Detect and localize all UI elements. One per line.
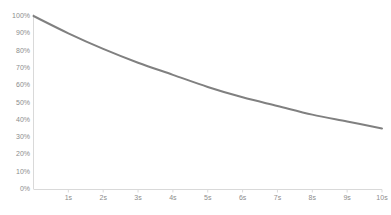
x-axis-tick-label: 9s bbox=[332, 194, 362, 202]
series-group bbox=[34, 16, 383, 128]
x-axis-tick-label: 8s bbox=[297, 194, 327, 202]
y-axis-tick-label: 20% bbox=[0, 150, 30, 158]
line-series-decay bbox=[34, 16, 383, 128]
y-axis-tick-label: 0% bbox=[0, 185, 30, 193]
x-axis-tick-label: 3s bbox=[123, 194, 153, 202]
x-axis-tick-label: 2s bbox=[88, 194, 118, 202]
y-axis-tick-label: 30% bbox=[0, 133, 30, 141]
y-axis-tick-label: 10% bbox=[0, 168, 30, 176]
x-axis-tick-label: 4s bbox=[158, 194, 188, 202]
y-axis-tick-label: 60% bbox=[0, 81, 30, 89]
y-axis-tick-label: 90% bbox=[0, 29, 30, 37]
y-axis-tick-label: 50% bbox=[0, 99, 30, 107]
x-axis-tick-label: 10s bbox=[367, 194, 391, 202]
x-axis-tick-label: 1s bbox=[53, 194, 83, 202]
chart-container: 0%10%20%30%40%50%60%70%80%90%100% 1s2s3s… bbox=[0, 0, 391, 215]
x-axis-tick-label: 6s bbox=[228, 194, 258, 202]
x-axis-tick-label: 7s bbox=[262, 194, 292, 202]
y-axis-tick-label: 40% bbox=[0, 116, 30, 124]
y-axis-tick-label: 70% bbox=[0, 64, 30, 72]
y-axis-tick-label: 100% bbox=[0, 12, 30, 20]
chart-plot-area bbox=[0, 0, 391, 215]
x-axis-tick-label: 5s bbox=[193, 194, 223, 202]
y-axis-tick-label: 80% bbox=[0, 47, 30, 55]
